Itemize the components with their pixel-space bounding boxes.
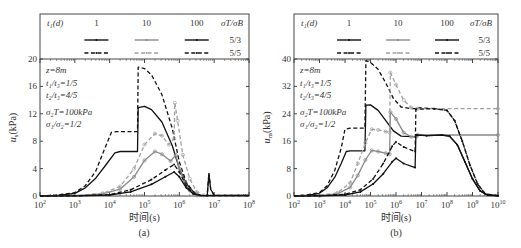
annotation-text: σ₁/σ₂=1/2 (46, 119, 82, 129)
annotation-text: t₁/t₃=1/5 (46, 78, 78, 88)
x-tick-label: 102 (288, 199, 300, 210)
x-tick-label: 108 (243, 199, 255, 210)
y-tick-label: 16 (282, 136, 292, 146)
series-line (40, 165, 249, 197)
legend-row-label: 5/5 (478, 48, 490, 58)
plot-frame (40, 14, 249, 196)
annotation-text: σ₁/σ₂=1/2 (300, 119, 336, 129)
series-line (40, 103, 249, 196)
annotation-text: t₂/t₃=4/5 (300, 90, 332, 100)
legend-row-label: 5/5 (229, 48, 241, 58)
x-tick-label: 103 (314, 199, 326, 210)
y-tick-label: 32 (282, 81, 291, 91)
x-tick-label: 104 (339, 199, 351, 210)
legend-column-label: 10 (394, 18, 404, 28)
x-tick-label: 1010 (491, 199, 506, 210)
chart-panel-b: 08162432401021031041051061071081091010时间… (261, 14, 506, 239)
y-tick-label: 40 (282, 54, 292, 64)
x-tick-label: 102 (34, 199, 46, 210)
y-tick-label: 8 (287, 164, 292, 174)
legend-row-label: 5/3 (478, 35, 490, 45)
legend-row-label: 5/3 (229, 35, 241, 45)
x-tick-label: 105 (139, 199, 151, 210)
chart-panel-a: 048121620102103104105106107108时间(s)us(kP… (7, 14, 255, 239)
x-tick-label: 106 (390, 199, 402, 210)
x-tick-label: 106 (173, 199, 185, 210)
y-axis-label: us(kPa) (7, 113, 20, 142)
y-tick-label: 20 (28, 54, 38, 64)
legend-header: t₁(d) (47, 18, 63, 28)
panel-caption: (a) (138, 227, 149, 239)
x-tick-label: 108 (441, 199, 453, 210)
y-axis-label: um(kPa) (261, 111, 274, 143)
annotation-text: t₁/t₃=1/5 (300, 78, 332, 88)
x-tick-label: 105 (365, 199, 377, 210)
y-tick-label: 4 (33, 164, 38, 174)
annotation-text: σ₂T=100kPa (46, 107, 93, 117)
x-tick-label: 104 (104, 199, 116, 210)
x-tick-label: 107 (416, 199, 428, 210)
legend: t₁(d)110100σT/σB5/35/5 (301, 18, 492, 58)
legend: t₁(d)110100σT/σB5/35/5 (47, 18, 243, 58)
figure: 048121620102103104105106107108时间(s)us(kP… (0, 0, 521, 248)
y-tick-label: 16 (28, 81, 38, 91)
annotation-text: σ₂T=100kPa (300, 107, 347, 117)
x-tick-label: 107 (208, 199, 220, 210)
legend-ratio-header: σT/σB (221, 18, 243, 28)
legend-column-label: 1 (347, 18, 352, 28)
x-tick-label: 103 (69, 199, 81, 210)
y-tick-label: 12 (28, 109, 37, 119)
legend-column-label: 100 (190, 18, 204, 28)
legend-column-label: 100 (440, 18, 454, 28)
x-axis-label: 时间(s) (129, 211, 160, 224)
legend-column-label: 1 (94, 18, 99, 28)
y-tick-label: 8 (33, 136, 38, 146)
x-tick-label: 109 (467, 199, 479, 210)
y-tick-label: 24 (282, 109, 292, 119)
annotation-text: z=8m (299, 65, 321, 75)
legend-column-label: 10 (142, 18, 152, 28)
panel-caption: (b) (390, 227, 402, 239)
annotation-text: z=8m (45, 65, 67, 75)
series-line (40, 152, 249, 197)
legend-ratio-header: σT/σB (470, 18, 492, 28)
series-line (294, 135, 498, 196)
x-axis-label: 时间(s) (381, 211, 412, 224)
legend-header: t₁(d) (301, 18, 317, 28)
annotation-text: t₂/t₃=4/5 (46, 90, 78, 100)
